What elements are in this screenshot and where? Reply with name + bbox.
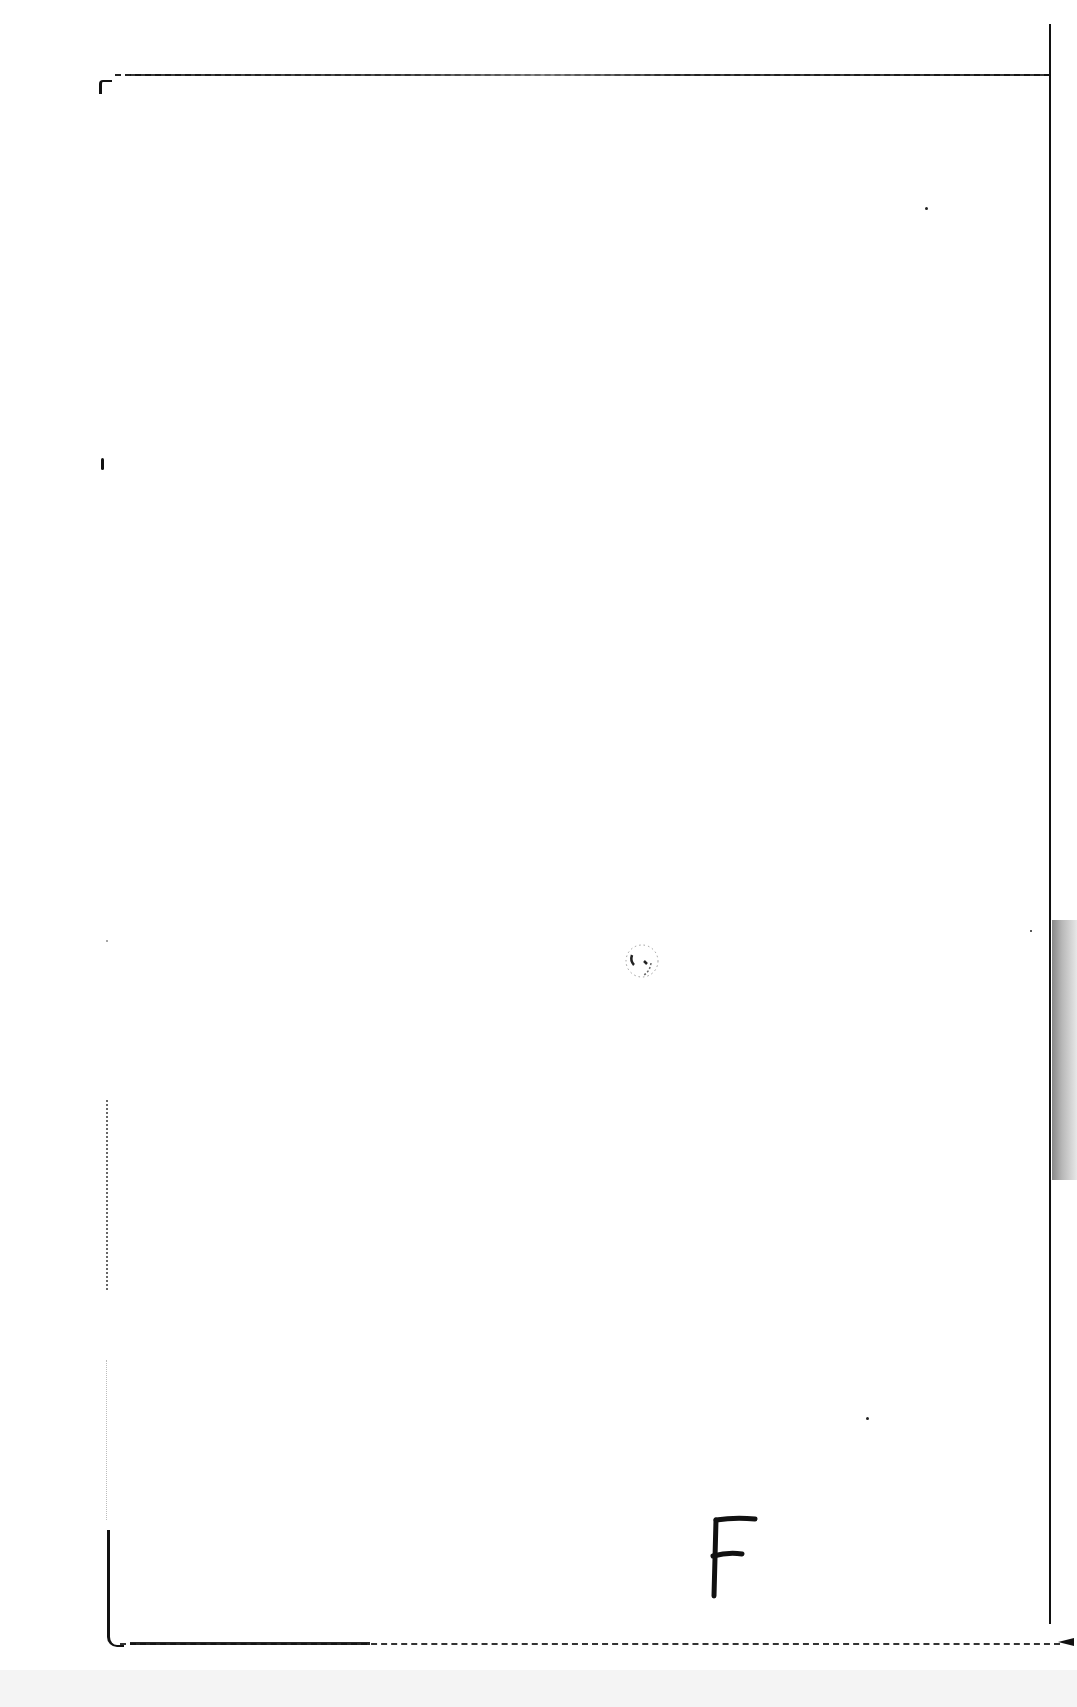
- scan-speck: [1030, 930, 1032, 932]
- scan-speck: [866, 1417, 869, 1420]
- frame-left-tick: [101, 458, 104, 470]
- frame-bottom-line-solid: [130, 1642, 370, 1645]
- frame-left-faint-line: [106, 1360, 107, 1520]
- frame-top-left-corner: [99, 80, 112, 94]
- scanned-page: [0, 0, 1077, 1707]
- center-smudge-mark: [618, 935, 666, 987]
- frame-right-line: [1049, 24, 1051, 1624]
- frame-bottom-left-corner: [107, 1530, 124, 1647]
- frame-top-line-solid: [130, 74, 1050, 76]
- handwritten-letter-f: [700, 1500, 770, 1610]
- frame-left-dotted-line: [106, 1100, 108, 1290]
- scan-bottom-edge: [0, 1670, 1077, 1707]
- frame-bottom-right-end: [1058, 1638, 1074, 1646]
- scan-speck: [106, 940, 108, 942]
- scan-edge-shadow: [1052, 920, 1077, 1180]
- scan-speck: [925, 207, 928, 210]
